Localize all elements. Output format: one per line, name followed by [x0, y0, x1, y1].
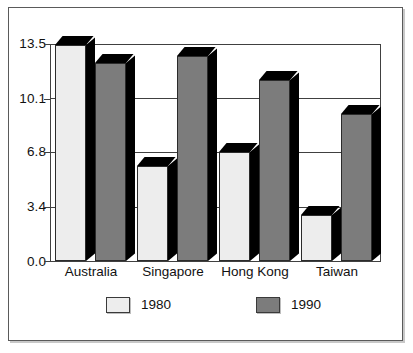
- y-tick-label-0: 0.0: [0, 255, 46, 269]
- legend-label-1990: 1990: [291, 298, 321, 312]
- chart-legend: 1980 1990: [50, 297, 381, 321]
- y-tick-label-2: 6.8: [0, 145, 46, 159]
- bar-side-face: [332, 207, 341, 261]
- bar-taiwan-1990[interactable]: [341, 114, 372, 261]
- y-tick-label-4: 13.5: [0, 37, 46, 51]
- bar-hong-kong-1980[interactable]: [219, 152, 250, 261]
- bar-singapore-1980[interactable]: [137, 166, 168, 261]
- legend-item-1980[interactable]: 1980: [106, 297, 171, 313]
- bar-chart-figure: 0.0 3.4 6.8 10.1 13.5: [0, 0, 413, 353]
- bar-hong-kong-1990[interactable]: [259, 80, 290, 261]
- bar-side-face: [168, 158, 177, 261]
- x-tick-label-hong-kong: Hong Kong: [221, 265, 289, 279]
- legend-swatch-1990-icon: [256, 297, 280, 313]
- plot-wrapper: 0.0 3.4 6.8 10.1 13.5: [0, 0, 413, 353]
- bar-front-face: [95, 63, 126, 261]
- y-tick-label-1: 3.4: [0, 200, 46, 214]
- legend-label-1980: 1980: [141, 298, 171, 312]
- bar-front-face: [177, 56, 208, 261]
- bar-front-face: [219, 152, 250, 261]
- y-tick-label-3: 10.1: [0, 92, 46, 106]
- bar-front-face: [301, 215, 332, 261]
- bar-front-face: [259, 80, 290, 261]
- bar-taiwan-1980[interactable]: [301, 215, 332, 261]
- y-axis-labels: 0.0 3.4 6.8 10.1 13.5: [0, 44, 46, 262]
- bar-group-taiwan: [297, 45, 379, 261]
- bar-australia-1980[interactable]: [55, 45, 86, 261]
- bar-series-container: [51, 45, 380, 261]
- x-tick-label-taiwan: Taiwan: [316, 265, 358, 279]
- bar-side-face: [86, 37, 95, 261]
- x-tick-label-singapore: Singapore: [142, 265, 204, 279]
- legend-swatch-1980-icon: [106, 297, 130, 313]
- bar-front-face: [55, 45, 86, 261]
- x-axis-labels: Australia Singapore Hong Kong Taiwan: [50, 265, 381, 285]
- bar-group-hong-kong: [215, 45, 297, 261]
- bar-side-face: [372, 106, 381, 261]
- bar-singapore-1990[interactable]: [177, 56, 208, 261]
- bar-group-singapore: [133, 45, 215, 261]
- legend-item-1990[interactable]: 1990: [256, 297, 321, 313]
- bar-front-face: [341, 114, 372, 261]
- x-tick-label-australia: Australia: [65, 265, 118, 279]
- bar-group-australia: [51, 45, 133, 261]
- bar-side-face: [250, 144, 259, 261]
- bar-australia-1990[interactable]: [95, 63, 126, 261]
- bar-front-face: [137, 166, 168, 261]
